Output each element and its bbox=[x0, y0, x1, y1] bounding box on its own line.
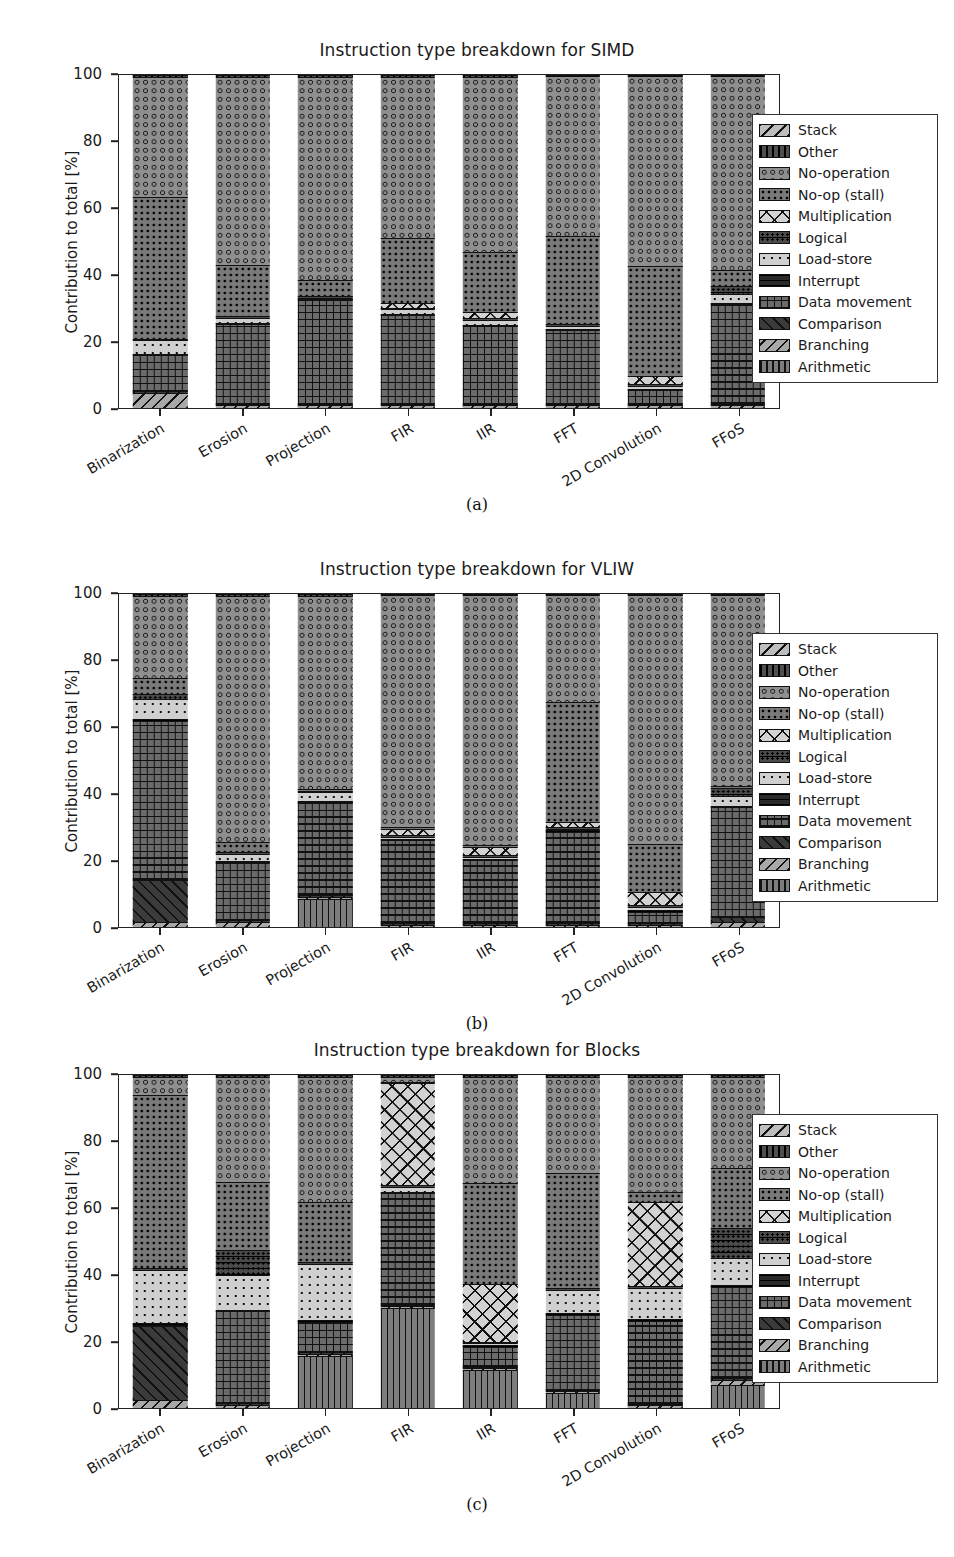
bar-segment bbox=[463, 855, 517, 857]
stacked-bar[interactable] bbox=[216, 75, 270, 408]
legend-item[interactable]: Branching bbox=[759, 854, 931, 875]
bar-segment bbox=[546, 1315, 600, 1390]
bar-segment bbox=[381, 1306, 435, 1308]
bar-segment bbox=[463, 75, 517, 77]
legend-item[interactable]: No-operation bbox=[759, 682, 931, 703]
legend-swatch-icon bbox=[759, 729, 790, 742]
stacked-bar[interactable] bbox=[381, 594, 435, 927]
bar-segment bbox=[298, 405, 352, 408]
y-tick-label: 20 bbox=[83, 333, 102, 351]
stacked-bar[interactable] bbox=[381, 75, 435, 408]
bar-segment bbox=[381, 1077, 435, 1082]
legend-item[interactable]: Branching bbox=[759, 1335, 931, 1356]
bar-segment bbox=[381, 1075, 435, 1077]
stacked-bar[interactable] bbox=[381, 1075, 435, 1408]
x-tick-label: Erosion bbox=[196, 1420, 250, 1461]
stacked-bar[interactable] bbox=[298, 594, 352, 927]
stacked-bar[interactable] bbox=[628, 594, 682, 927]
stacked-bar[interactable] bbox=[546, 75, 600, 408]
legend-item[interactable]: No-op (stall) bbox=[759, 704, 931, 725]
legend-item[interactable]: Other bbox=[759, 1142, 931, 1163]
legend-item[interactable]: Comparison bbox=[759, 1314, 931, 1335]
legend-item[interactable]: Data movement bbox=[759, 1292, 931, 1313]
stacked-bar[interactable] bbox=[463, 594, 517, 927]
stacked-bar[interactable] bbox=[133, 75, 187, 408]
legend-item[interactable]: No-operation bbox=[759, 163, 931, 184]
legend-item[interactable]: Stack bbox=[759, 1120, 931, 1141]
legend-b[interactable]: StackOtherNo-operationNo-op (stall)Multi… bbox=[752, 633, 938, 902]
x-tick-label: FFoS bbox=[709, 1420, 747, 1451]
legend-item[interactable]: Multiplication bbox=[759, 1206, 931, 1227]
legend-item[interactable]: Interrupt bbox=[759, 271, 931, 292]
legend-item[interactable]: Arithmetic bbox=[759, 357, 931, 378]
legend-item[interactable]: Multiplication bbox=[759, 206, 931, 227]
legend-item[interactable]: Other bbox=[759, 661, 931, 682]
y-tick-mark bbox=[111, 1341, 118, 1343]
bar-segment bbox=[628, 1286, 682, 1288]
bar-segment bbox=[546, 404, 600, 406]
legend-item[interactable]: Data movement bbox=[759, 292, 931, 313]
bar-segment bbox=[216, 1182, 270, 1250]
stacked-bar[interactable] bbox=[628, 75, 682, 408]
bar-segment bbox=[628, 1405, 682, 1408]
legend-item[interactable]: Interrupt bbox=[759, 1271, 931, 1292]
y-tick-label: 40 bbox=[83, 1266, 102, 1284]
bar-segment bbox=[546, 76, 600, 236]
stacked-bar[interactable] bbox=[133, 594, 187, 927]
legend-item[interactable]: Multiplication bbox=[759, 725, 931, 746]
bar-segment bbox=[133, 391, 187, 393]
legend-label: No-op (stall) bbox=[798, 1188, 885, 1202]
legend-item[interactable]: No-operation bbox=[759, 1163, 931, 1184]
stacked-bar[interactable] bbox=[216, 1075, 270, 1408]
legend-item[interactable]: Logical bbox=[759, 747, 931, 768]
bar-segment bbox=[463, 404, 517, 406]
stacked-bar[interactable] bbox=[133, 1075, 187, 1408]
legend-item[interactable]: Arithmetic bbox=[759, 1357, 931, 1378]
stacked-bar[interactable] bbox=[546, 1075, 600, 1408]
bar-segment bbox=[463, 325, 517, 326]
legend-item[interactable]: Logical bbox=[759, 228, 931, 249]
legend-item[interactable]: Other bbox=[759, 142, 931, 163]
y-tick-label: 100 bbox=[73, 65, 102, 83]
stacked-bar[interactable] bbox=[463, 1075, 517, 1408]
legend-item[interactable]: Interrupt bbox=[759, 790, 931, 811]
y-tick-mark bbox=[111, 592, 118, 594]
legend-item[interactable]: No-op (stall) bbox=[759, 1185, 931, 1206]
x-tick-label: FIR bbox=[388, 1420, 416, 1445]
x-tick-label: FIR bbox=[388, 420, 416, 445]
legend-item[interactable]: Data movement bbox=[759, 811, 931, 832]
legend-item[interactable]: Logical bbox=[759, 1228, 931, 1249]
legend-item[interactable]: Load-store bbox=[759, 1249, 931, 1270]
stacked-bar[interactable] bbox=[463, 75, 517, 408]
bar-slot bbox=[449, 1075, 532, 1408]
bar-segment bbox=[216, 324, 270, 404]
stacked-bar[interactable] bbox=[546, 594, 600, 927]
stacked-bar[interactable] bbox=[216, 594, 270, 927]
legend-item[interactable]: Branching bbox=[759, 335, 931, 356]
legend-item[interactable]: Load-store bbox=[759, 768, 931, 789]
legend-item[interactable]: Stack bbox=[759, 639, 931, 660]
bar-segment bbox=[463, 1342, 517, 1344]
bar-segment bbox=[381, 303, 435, 308]
legend-item[interactable]: Stack bbox=[759, 120, 931, 141]
stacked-bar[interactable] bbox=[298, 1075, 352, 1408]
bar-slot bbox=[367, 1075, 450, 1408]
stacked-bar[interactable] bbox=[628, 1075, 682, 1408]
bar-segment bbox=[711, 75, 765, 76]
legend-label: Arithmetic bbox=[798, 1360, 871, 1374]
bar-segment bbox=[628, 1404, 682, 1406]
legend-item[interactable]: No-op (stall) bbox=[759, 185, 931, 206]
legend-item[interactable]: Comparison bbox=[759, 833, 931, 854]
legend-item[interactable]: Comparison bbox=[759, 314, 931, 335]
x-tick-label: Binarization bbox=[85, 1420, 168, 1477]
legend-swatch-icon bbox=[759, 664, 790, 677]
x-tick-label: FFoS bbox=[709, 939, 747, 970]
legend-item[interactable]: Arithmetic bbox=[759, 876, 931, 897]
legend-item[interactable]: Load-store bbox=[759, 249, 931, 270]
legend-c[interactable]: StackOtherNo-operationNo-op (stall)Multi… bbox=[752, 1114, 938, 1383]
bar-segment bbox=[298, 802, 352, 895]
x-tick-mark bbox=[325, 1409, 327, 1416]
stacked-bar[interactable] bbox=[298, 75, 352, 408]
legend-a[interactable]: StackOtherNo-operationNo-op (stall)Multi… bbox=[752, 114, 938, 383]
bar-segment bbox=[628, 389, 682, 390]
